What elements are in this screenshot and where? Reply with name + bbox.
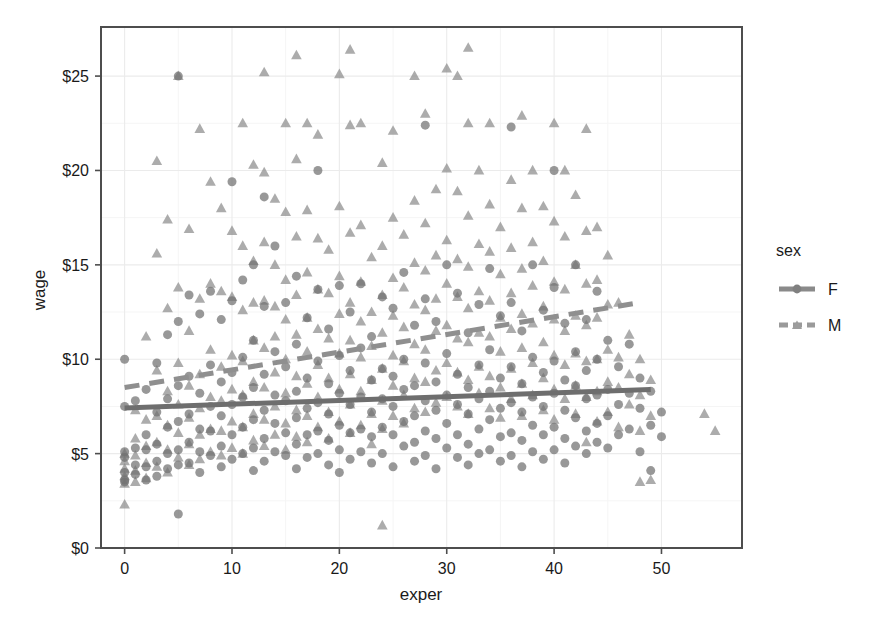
data-point-f (195, 389, 204, 398)
data-point-f (507, 398, 516, 407)
data-point-f (625, 340, 634, 349)
data-point-f (582, 315, 591, 324)
legend-key-marker-f (793, 285, 802, 294)
data-point-f (185, 409, 194, 418)
data-point-f (571, 347, 580, 356)
data-point-f (303, 313, 312, 322)
data-point-f (410, 457, 419, 466)
y-axis-title: wage (30, 270, 49, 312)
data-point-f (410, 438, 419, 447)
data-point-f (185, 291, 194, 300)
data-point-f (303, 453, 312, 462)
data-point-f (431, 406, 440, 415)
data-point-f (335, 445, 344, 454)
data-point-f (335, 281, 344, 290)
y-tick-label: $15 (62, 257, 89, 274)
data-point-f (399, 355, 408, 364)
data-point-f (120, 355, 129, 364)
data-point-f (442, 349, 451, 358)
data-point-f (378, 364, 387, 373)
data-point-f (238, 353, 247, 362)
data-point-f (496, 374, 505, 383)
data-point-f (571, 442, 580, 451)
data-point-f (442, 443, 451, 452)
data-point-f (453, 453, 462, 462)
legend-item-m[interactable]: M (779, 317, 841, 334)
data-point-f (195, 425, 204, 434)
data-point-f (249, 383, 258, 392)
data-point-f (163, 330, 172, 339)
data-point-f (378, 449, 387, 458)
data-point-f (174, 445, 183, 454)
data-point-f (163, 423, 172, 432)
data-point-f (571, 260, 580, 269)
data-point-f (421, 121, 430, 130)
data-point-f (485, 345, 494, 354)
data-point-f (614, 430, 623, 439)
data-point-f (431, 377, 440, 386)
data-point-f (550, 166, 559, 175)
chart-figure: 01020304050 $0$5$10$15$20$25 exper wage … (0, 0, 873, 633)
data-point-f (603, 411, 612, 420)
data-point-f (614, 362, 623, 371)
data-point-f (142, 430, 151, 439)
data-point-f (260, 370, 269, 379)
data-point-f (163, 449, 172, 458)
data-point-f (142, 445, 151, 454)
data-point-f (217, 462, 226, 471)
data-point-f (346, 308, 355, 317)
data-point-f (131, 460, 140, 469)
data-point-f (217, 315, 226, 324)
data-point-f (560, 319, 569, 328)
data-point-f (324, 409, 333, 418)
data-point-f (528, 353, 537, 362)
data-point-f (474, 300, 483, 309)
data-point-f (421, 359, 430, 368)
y-tick-label: $25 (62, 68, 89, 85)
data-point-f (399, 385, 408, 394)
data-point-f (453, 370, 462, 379)
data-point-f (421, 451, 430, 460)
data-point-f (539, 306, 548, 315)
data-point-f (303, 430, 312, 439)
data-point-f (356, 279, 365, 288)
data-point-f (399, 417, 408, 426)
data-point-f (593, 419, 602, 428)
data-point-f (195, 309, 204, 318)
data-point-f (206, 287, 215, 296)
data-point-f (281, 298, 290, 307)
data-point-f (464, 383, 473, 392)
data-point-f (227, 177, 236, 186)
legend-item-f[interactable]: F (779, 281, 838, 298)
data-point-f (324, 460, 333, 469)
data-point-f (324, 379, 333, 388)
data-point-f (335, 468, 344, 477)
data-point-f (281, 451, 290, 460)
data-point-f (227, 455, 236, 464)
data-point-f (496, 432, 505, 441)
data-point-f (421, 426, 430, 435)
data-point-f (453, 400, 462, 409)
data-point-f (292, 413, 301, 422)
data-point-f (539, 368, 548, 377)
data-point-f (195, 468, 204, 477)
data-point-f (517, 408, 526, 417)
data-point-f (270, 447, 279, 456)
data-point-f (507, 123, 516, 132)
data-point-f (517, 462, 526, 471)
data-point-f (152, 472, 161, 481)
data-point-f (238, 449, 247, 458)
data-point-f (142, 385, 151, 394)
data-point-f (657, 432, 666, 441)
data-point-f (431, 317, 440, 326)
data-point-f (249, 443, 258, 452)
data-point-f (431, 464, 440, 473)
data-point-f (120, 453, 129, 462)
data-point-f (474, 449, 483, 458)
data-point-f (227, 296, 236, 305)
data-point-f (389, 304, 398, 313)
data-point-f (539, 455, 548, 464)
data-point-f (442, 260, 451, 269)
data-point-f (249, 466, 258, 475)
data-point-f (335, 389, 344, 398)
